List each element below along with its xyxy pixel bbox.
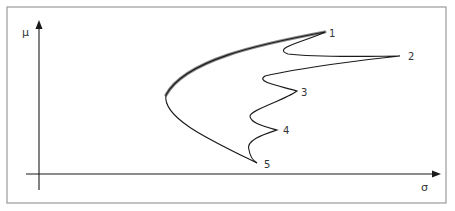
portfolio-boundary-curve — [248, 32, 400, 163]
y-axis-arrow-icon — [36, 20, 43, 29]
x-axis-arrow-icon — [432, 171, 441, 178]
x-axis-label: σ — [421, 181, 428, 194]
y-axis-label: μ — [22, 26, 29, 39]
point-label-2: 2 — [408, 51, 414, 62]
point-label-4: 4 — [283, 125, 289, 136]
point-label-5: 5 — [264, 159, 270, 170]
point-label-3: 3 — [301, 87, 307, 98]
point-label-1: 1 — [329, 28, 335, 39]
mean-variance-diagram: μ σ 1 2 3 4 5 — [0, 0, 455, 211]
